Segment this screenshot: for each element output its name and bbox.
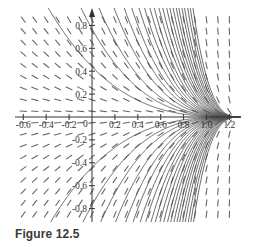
x-tick-label: 0.6 (155, 120, 167, 130)
field-segment (135, 111, 141, 112)
solution-curves (46, 3, 241, 231)
field-segment (55, 166, 60, 170)
field-segment (67, 178, 71, 183)
field-segment (228, 109, 232, 114)
x-tick-label: 0.8 (178, 120, 190, 130)
field-segment (123, 133, 129, 136)
figure-caption: Figure 12.5 (15, 227, 79, 241)
field-segment (67, 28, 71, 33)
field-segment (56, 189, 60, 194)
field-segment (218, 188, 219, 194)
field-segment (55, 63, 60, 67)
field-segment (43, 87, 49, 90)
field-segment (21, 29, 25, 34)
field-segment (44, 167, 49, 171)
field-segment (66, 99, 72, 101)
field-segment (21, 40, 25, 45)
field-segment (100, 99, 106, 101)
field-segment (32, 111, 38, 112)
field-segment (206, 188, 207, 194)
field-segment (43, 155, 48, 158)
field-segment (67, 212, 70, 218)
field-segment (44, 212, 48, 217)
field-segment (229, 154, 230, 160)
field-segment (21, 178, 26, 182)
field-segment (20, 133, 26, 134)
x-tick-label: 1.0 (201, 120, 213, 130)
field-segment (125, 28, 128, 34)
field-segment (20, 156, 26, 159)
field-segment (32, 64, 37, 68)
field-segment (113, 155, 118, 159)
field-segment (229, 97, 230, 103)
field-segment (100, 122, 106, 123)
field-segment (44, 63, 49, 67)
field-segment (125, 177, 128, 182)
field-segment (217, 165, 218, 171)
field-segment (101, 166, 105, 171)
field-segment (21, 212, 25, 217)
field-segment (229, 74, 230, 80)
field-segment (43, 133, 49, 135)
field-segment (147, 86, 152, 90)
field-segment (102, 40, 105, 45)
field-segment (206, 16, 207, 22)
field-segment (229, 85, 230, 91)
solution-curve (112, 3, 241, 117)
x-tick-label: 1.2 (223, 120, 235, 130)
field-segment (56, 29, 60, 34)
field-segment (100, 111, 106, 112)
field-segment (101, 87, 106, 90)
origin-label: 0 (83, 119, 88, 129)
field-segment (21, 17, 25, 22)
field-segment (206, 51, 207, 57)
field-segment (114, 17, 117, 23)
field-segment (20, 75, 26, 78)
field-segment (20, 99, 26, 100)
field-segment (54, 111, 60, 112)
field-segment (113, 177, 117, 182)
field-segment (124, 144, 129, 148)
field-segment (114, 211, 117, 217)
field-segment (102, 177, 106, 182)
field-segment (112, 111, 118, 112)
field-segment (206, 28, 207, 34)
field-segment (33, 212, 37, 217)
y-axis-arrow-icon (89, 8, 95, 17)
field-segment (125, 17, 127, 23)
field-segment (147, 155, 151, 160)
field-segment (20, 87, 26, 89)
y-tick-label: 0.8 (75, 21, 87, 31)
field-segment (217, 97, 220, 103)
field-segment (100, 133, 106, 135)
field-segment (67, 63, 72, 67)
field-segment (55, 75, 60, 79)
field-segment (113, 200, 116, 206)
x-tick-label: 0.4 (132, 120, 144, 130)
field-segment (206, 177, 207, 183)
field-segment (137, 17, 139, 23)
field-segment (112, 133, 118, 135)
field-segment (217, 154, 218, 160)
field-segment (32, 133, 38, 135)
field-segment (102, 28, 105, 34)
field-segment (32, 99, 38, 101)
field-segment (55, 155, 60, 159)
field-segment (113, 28, 116, 34)
field-segment (206, 62, 207, 68)
field-segment (218, 200, 219, 206)
field-segment (43, 111, 49, 112)
field-segment (55, 99, 61, 101)
field-segment (56, 40, 60, 45)
field-segment (55, 87, 61, 90)
field-segment (55, 52, 59, 57)
field-segment (33, 29, 37, 34)
field-segment (67, 52, 71, 57)
solution-curve (112, 117, 241, 230)
field-segment (102, 189, 105, 194)
field-segment (124, 63, 128, 68)
field-segment (32, 75, 38, 78)
field-segment (66, 111, 72, 112)
field-segment (43, 75, 48, 78)
field-segment (56, 200, 60, 205)
